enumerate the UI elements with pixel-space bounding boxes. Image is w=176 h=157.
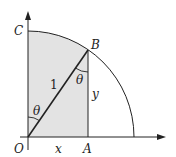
label-y: y	[91, 87, 99, 101]
label-a: A	[82, 142, 92, 156]
label-c: C	[14, 24, 23, 38]
label-b: B	[90, 38, 100, 52]
label-theta-b: θ	[76, 73, 84, 87]
label-x: x	[55, 142, 62, 156]
label-theta-o: θ	[33, 104, 41, 118]
label-o: O	[14, 142, 24, 156]
label-hypotenuse: 1	[50, 78, 58, 92]
diagram-canvas: C B O A x y 1 θ θ	[0, 0, 176, 157]
y-axis-arrow-icon	[25, 11, 31, 20]
x-axis-arrow-icon	[157, 134, 166, 140]
